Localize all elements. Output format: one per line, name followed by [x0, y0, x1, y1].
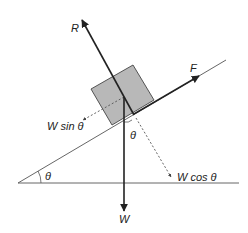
normal-force-label: R — [71, 22, 79, 34]
block-angle-label: θ — [130, 129, 136, 141]
free-body-diagram: θ W sin θ W cos θ θ R F W — [0, 0, 248, 233]
incline-angle-label: θ — [45, 170, 51, 182]
applied-force-label: F — [190, 62, 198, 74]
weight-label: W — [119, 213, 131, 225]
w-cos-label: W cos θ — [177, 171, 217, 183]
w-cos-component-arrow — [136, 118, 171, 177]
incline-angle-arc — [38, 171, 41, 183]
w-sin-label: W sin θ — [47, 120, 84, 132]
block-angle-arc — [124, 120, 132, 122]
